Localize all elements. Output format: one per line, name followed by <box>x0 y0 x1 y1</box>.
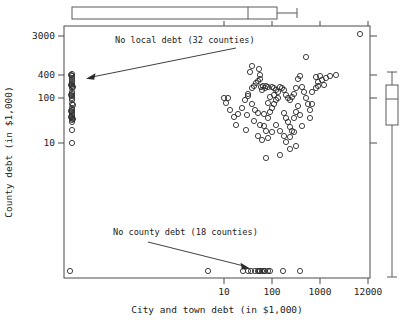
scatter-point <box>233 122 238 127</box>
y-tick-label-100: 100 <box>38 92 55 103</box>
y-axis-ticks-left <box>58 36 64 143</box>
scatter-point <box>239 105 244 110</box>
scatter-point <box>281 110 286 115</box>
scatter-point <box>251 118 256 123</box>
y-tick-labels: 3000 400 100 10 <box>32 30 55 148</box>
scatter-point <box>301 89 306 94</box>
scatter-point <box>69 140 74 145</box>
scatter-point <box>299 84 304 89</box>
scatter-point <box>321 82 326 87</box>
scatter-point <box>256 66 261 71</box>
annotation-no-county-debt-arrow <box>148 242 244 266</box>
x-tick-label-10: 10 <box>218 286 230 297</box>
scatter-point <box>243 127 248 132</box>
scatter-point <box>297 268 302 273</box>
scatter-point <box>299 123 304 128</box>
scatter-point <box>263 128 268 133</box>
scatter-point <box>69 127 74 132</box>
scatter-point <box>252 107 257 112</box>
scatter-point <box>281 133 286 138</box>
x-tick-labels: 10 100 1000 12000 <box>218 286 382 297</box>
annotation-no-local-debt: No local debt (32 counties) <box>86 35 255 80</box>
scatter-point <box>231 114 236 119</box>
annotation-no-local-debt-arrow <box>92 48 236 77</box>
y-axis-label: County debt (in $1,000) <box>3 86 14 218</box>
scatter-point <box>261 111 266 116</box>
scatter-point <box>303 54 308 59</box>
scatter-point <box>263 155 268 160</box>
scatter-point <box>280 268 285 273</box>
scatter-point <box>297 112 302 117</box>
x-tick-label-100: 100 <box>263 286 280 297</box>
scatter-point <box>227 107 232 112</box>
x-tick-label-12000: 12000 <box>354 286 383 297</box>
scatter-point <box>287 134 292 139</box>
plot-frame-rect <box>64 26 370 278</box>
scatter-point <box>265 135 270 140</box>
scatter-point <box>295 103 300 108</box>
plot-frame <box>64 26 370 278</box>
scatter-point <box>265 100 270 105</box>
scatter-point <box>309 89 314 94</box>
scatter-point <box>265 115 270 120</box>
top-marginal-boxplot <box>72 7 297 19</box>
x-tick-label-1000: 1000 <box>309 286 332 297</box>
scatter-point <box>287 146 292 151</box>
scatter-points-layer <box>67 31 362 273</box>
y-tick-label-10: 10 <box>44 137 56 148</box>
scatter-point <box>307 115 312 120</box>
top-boxplot-box <box>72 7 277 19</box>
scatter-point <box>277 128 282 133</box>
x-axis-label: City and town debt (in $1,000) <box>131 304 303 315</box>
scatter-point <box>269 129 274 134</box>
y-tick-label-400: 400 <box>38 69 55 80</box>
scatter-point <box>277 152 282 157</box>
scatter-point <box>255 133 260 138</box>
x-axis-ticks-top <box>224 21 368 26</box>
scatter-point <box>357 31 362 36</box>
right-boxplot-box <box>386 85 398 125</box>
scatter-point <box>283 139 288 144</box>
scatter-point <box>303 95 308 100</box>
annotation-no-county-debt-text: No county debt (18 counties) <box>113 227 258 237</box>
annotation-no-local-debt-text: No local debt (32 counties) <box>115 35 255 45</box>
scatter-point <box>291 115 296 120</box>
scatter-plot-with-marginal-boxplots: 3000 400 100 10 10 100 1000 12000 City a… <box>0 0 412 324</box>
scatter-point <box>259 137 264 142</box>
y-axis-ticks-right <box>370 36 377 143</box>
figure-container: 3000 400 100 10 10 100 1000 12000 City a… <box>0 0 412 324</box>
scatter-point <box>205 268 210 273</box>
scatter-point <box>255 110 260 115</box>
scatter-point <box>247 69 252 74</box>
scatter-point <box>249 101 254 106</box>
scatter-point <box>333 72 338 77</box>
scatter-point <box>223 100 228 105</box>
annotation-no-local-debt-arrowhead <box>86 73 96 80</box>
scatter-point <box>244 112 249 117</box>
scatter-point <box>293 85 298 90</box>
scatter-point <box>307 107 312 112</box>
scatter-point <box>249 63 254 68</box>
scatter-point <box>293 143 298 148</box>
x-axis-ticks-bottom <box>224 278 368 284</box>
annotation-no-county-debt: No county debt (18 counties) <box>113 227 258 269</box>
annotation-no-county-debt-arrowhead <box>241 263 251 270</box>
y-tick-label-3000: 3000 <box>32 30 55 41</box>
right-marginal-boxplot <box>386 72 398 277</box>
scatter-point <box>273 122 278 127</box>
scatter-point <box>67 268 72 273</box>
